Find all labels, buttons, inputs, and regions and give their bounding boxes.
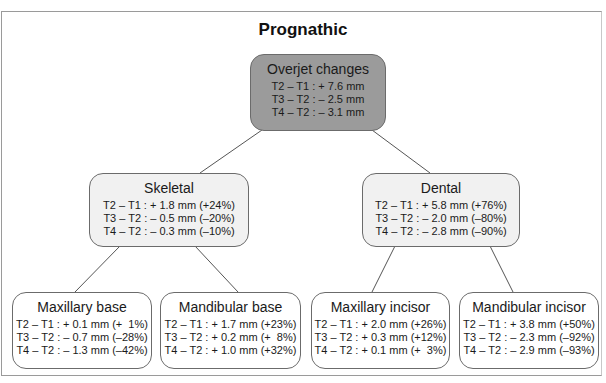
node-label: Mandibular base [161, 299, 300, 315]
connector-dental-mandibular-incisor [490, 246, 513, 292]
node-value: T3 – T2 : – 0.5 mm (–20%) [90, 212, 248, 225]
node-mandibular-base: Mandibular base T2 – T1 : + 1.7 mm (+23%… [160, 292, 301, 369]
connector-dental-maxillary-incisor [372, 246, 395, 292]
node-label: Dental [363, 180, 519, 196]
node-value: T3 – T2 : – 2.3 mm (–92%) [460, 331, 598, 344]
node-maxillary-base: Maxillary base T2 – T1 : + 0.1 mm (+ 1%)… [12, 292, 152, 369]
node-value: T3 – T2 : – 0.7 mm (–28%) [13, 331, 151, 344]
node-skeletal: Skeletal T2 – T1 : + 1.8 mm (+24%) T3 – … [89, 173, 249, 247]
node-value: T2 – T1 : + 2.0 mm (+26%) [312, 318, 449, 331]
node-value: T2 – T1 : + 0.1 mm (+ 1%) [13, 318, 151, 331]
node-value: T4 – T2 : – 3.1 mm [251, 106, 385, 119]
connector-skeletal-maxillary-base [75, 246, 120, 292]
node-value: T4 – T2 : + 1.0 mm (+32%) [161, 344, 300, 357]
node-value: T3 – T2 : + 0.3 mm (+12%) [312, 331, 449, 344]
node-value: T3 – T2 : + 0.2 mm (+ 8%) [161, 331, 300, 344]
node-value: T4 – T2 : – 2.8 mm (–90%) [363, 225, 519, 238]
node-overjet-changes: Overjet changes T2 – T1 : + 7.6 mm T3 – … [250, 54, 386, 131]
node-value: T3 – T2 : – 2.0 mm (–80%) [363, 212, 519, 225]
node-value: T4 – T2 : – 0.3 mm (–10%) [90, 225, 248, 238]
node-value: T4 – T2 : – 2.9 mm (–93%) [460, 344, 598, 357]
node-value: T2 – T1 : + 1.7 mm (+23%) [161, 318, 300, 331]
connector-root-dental [372, 130, 430, 173]
node-dental: Dental T2 – T1 : + 5.8 mm (+76%) T3 – T2… [362, 173, 520, 247]
node-label: Mandibular incisor [460, 299, 598, 315]
connector-root-skeletal [200, 130, 262, 173]
node-value: T4 – T2 : – 1.3 mm (–42%) [13, 344, 151, 357]
node-label: Overjet changes [251, 61, 385, 77]
node-value: T2 – T1 : + 7.6 mm [251, 80, 385, 93]
node-value: T2 – T1 : + 3.8 mm (+50%) [460, 318, 598, 331]
node-value: T4 – T2 : + 0.1 mm (+ 3%) [312, 344, 449, 357]
connector-skeletal-mandibular-base [195, 246, 238, 292]
node-label: Maxillary base [13, 299, 151, 315]
node-maxillary-incisor: Maxillary incisor T2 – T1 : + 2.0 mm (+2… [311, 292, 450, 369]
node-value: T3 – T2 : – 2.5 mm [251, 93, 385, 106]
node-value: T2 – T1 : + 5.8 mm (+76%) [363, 199, 519, 212]
node-mandibular-incisor: Mandibular incisor T2 – T1 : + 3.8 mm (+… [459, 292, 599, 369]
node-value: T2 – T1 : + 1.8 mm (+24%) [90, 199, 248, 212]
node-label: Skeletal [90, 180, 248, 196]
node-label: Maxillary incisor [312, 299, 449, 315]
